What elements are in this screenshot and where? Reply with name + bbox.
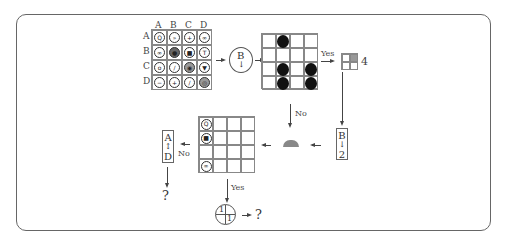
box-bottom-letter: D xyxy=(164,151,172,162)
folder-icon: ■ xyxy=(184,47,195,58)
symbol-grid: Q » + ∞ ∞ ● ■ T o / ◉ ▼ − + / ◎ xyxy=(151,29,212,90)
dot-cell xyxy=(290,62,304,76)
search-icon: Q xyxy=(201,119,212,130)
arrow-line xyxy=(227,179,228,199)
no-label: No xyxy=(295,110,307,118)
dot-cell xyxy=(276,48,290,62)
dot-cell xyxy=(304,34,318,48)
filled-dot-icon xyxy=(305,63,317,76)
box-bottom-number: 2 xyxy=(339,149,345,160)
divider xyxy=(216,214,235,215)
dot-cell xyxy=(262,62,276,76)
down-arrow-icon: ↓ xyxy=(339,141,346,149)
small-grid-value: 4 xyxy=(361,56,368,67)
result-cell: Q xyxy=(199,117,213,131)
result-cell xyxy=(213,131,227,145)
dot-grid xyxy=(261,33,318,89)
grid-cell-a-a: Q xyxy=(152,30,167,45)
minus-icon: − xyxy=(154,77,165,88)
grid-cell-c-c: ◉ xyxy=(182,60,197,75)
grid-cell-d-c: / xyxy=(182,75,197,90)
plus-icon: + xyxy=(169,77,180,88)
no-label: No xyxy=(178,150,190,158)
row-label-a: A xyxy=(143,32,150,41)
down-arrow-icon: ↓ xyxy=(238,60,245,69)
quad-circle: 1 1 xyxy=(215,204,236,225)
target-icon: ◉ xyxy=(184,62,195,73)
dot-cell xyxy=(262,34,276,48)
dot-cell xyxy=(276,76,290,90)
small-cell xyxy=(350,62,358,70)
result-cell xyxy=(241,159,255,173)
ring-icon: ◎ xyxy=(199,77,210,88)
filled-dot-icon xyxy=(277,63,289,76)
arrow-left-icon xyxy=(310,143,315,147)
grid-cell-d-d: ◎ xyxy=(197,75,212,90)
result-cell xyxy=(227,131,241,145)
arrow-left-icon xyxy=(261,143,266,147)
antenna-icon: T xyxy=(199,47,210,58)
filled-dot-icon xyxy=(305,77,317,90)
dot-cell xyxy=(290,76,304,90)
grid-cell-a-d: ∞ xyxy=(197,30,212,45)
pencil-icon: / xyxy=(169,62,180,73)
double-circle-icon: ∞ xyxy=(154,47,165,58)
dot-cell xyxy=(304,48,318,62)
grid-cell-b-d: T xyxy=(197,45,212,60)
infinity-icon: ∞ xyxy=(199,32,210,43)
infinity-icon: ∞ xyxy=(201,161,212,172)
dot-cell xyxy=(276,62,290,76)
filled-dot-icon xyxy=(277,35,289,48)
dot-cell xyxy=(290,34,304,48)
dot-cell xyxy=(304,62,318,76)
quad-top-left-value: 1 xyxy=(219,205,224,214)
grid-cell-a-c: + xyxy=(182,30,197,45)
filled-dot-icon xyxy=(277,77,289,90)
result-cell xyxy=(227,159,241,173)
small-cell-shaded xyxy=(350,54,358,62)
grid-cell-b-b: ● xyxy=(167,45,182,60)
grid-cell-b-c: ■ xyxy=(182,45,197,60)
result-cell xyxy=(241,131,255,145)
grid-cell-d-a: − xyxy=(152,75,167,90)
a-to-d-box: A ↕ D xyxy=(162,130,174,163)
result-cell: ∞ xyxy=(199,159,213,173)
b-to-2-box: B ↓ 2 xyxy=(336,128,348,160)
result-cell xyxy=(227,117,241,131)
result-cell: ■ xyxy=(199,131,213,145)
half-dome-icon xyxy=(283,140,299,147)
dot-cell xyxy=(262,76,276,90)
question-mark: ? xyxy=(255,207,262,222)
grid-cell-a-b: » xyxy=(167,30,182,45)
plus-icon: + xyxy=(184,32,195,43)
arrow-down-icon xyxy=(340,121,344,126)
selector-circle: B ↓ xyxy=(229,47,253,73)
result-grid: Q ■ ∞ xyxy=(198,116,255,173)
small-grid xyxy=(341,53,358,70)
arrow-left-icon xyxy=(180,142,185,146)
result-cell xyxy=(227,145,241,159)
yes-label: Yes xyxy=(231,184,244,192)
filled-circle-icon: ● xyxy=(169,47,180,58)
grid-cell-c-b: / xyxy=(167,60,182,75)
arrow-right-icon xyxy=(247,213,252,217)
dot-cell xyxy=(304,76,318,90)
result-cell xyxy=(241,117,255,131)
eye-icon: o xyxy=(154,62,165,73)
arrow-line xyxy=(290,104,291,124)
result-cell xyxy=(213,145,227,159)
arrow-right-icon xyxy=(221,58,226,62)
arrow-line xyxy=(342,72,343,122)
small-cell xyxy=(342,54,350,62)
result-cell xyxy=(213,117,227,131)
fast-forward-icon: » xyxy=(169,32,180,43)
cup-icon: ▼ xyxy=(199,62,210,73)
up-down-arrow-icon: ↕ xyxy=(165,143,172,151)
folder-icon: ■ xyxy=(201,133,212,144)
yes-label: Yes xyxy=(321,50,334,58)
dot-cell xyxy=(290,48,304,62)
row-label-d: D xyxy=(143,77,150,86)
arrow-down-icon xyxy=(225,198,229,203)
result-cell xyxy=(213,159,227,173)
arrow-down-icon xyxy=(288,123,292,128)
